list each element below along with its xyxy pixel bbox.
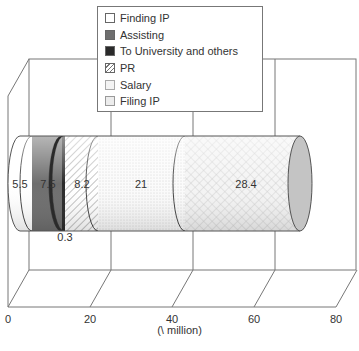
legend-item-assisting: Assisting <box>105 27 262 44</box>
legend-item-salary: Salary <box>105 76 262 93</box>
floor <box>8 270 357 307</box>
legend-item-to-university: To University and others <box>105 43 262 60</box>
label-to-university: 0.3 <box>57 231 72 243</box>
cylinder-end-cap <box>288 136 312 231</box>
swatch-gray-icon <box>105 30 115 40</box>
swatch-dots-icon <box>105 80 115 90</box>
label-finding-ip: 5.5 <box>12 178 27 190</box>
label-assisting: 7.5 <box>40 178 55 190</box>
label-filing-ip: 28.4 <box>235 178 256 190</box>
label-pr: 8.2 <box>74 178 89 190</box>
swatch-dark-icon <box>105 46 115 56</box>
label-salary: 21 <box>135 178 147 190</box>
legend: Finding IP Assisting To University and o… <box>97 6 263 112</box>
swatch-crosshatch-icon <box>105 96 115 106</box>
legend-item-filing-ip: Filing IP <box>105 93 262 110</box>
x-axis-label: (\ million) <box>0 324 359 336</box>
legend-item-finding-ip: Finding IP <box>105 10 262 27</box>
swatch-blank-icon <box>105 13 115 23</box>
swatch-hatch-icon <box>105 63 115 73</box>
legend-item-pr: PR <box>105 60 262 77</box>
